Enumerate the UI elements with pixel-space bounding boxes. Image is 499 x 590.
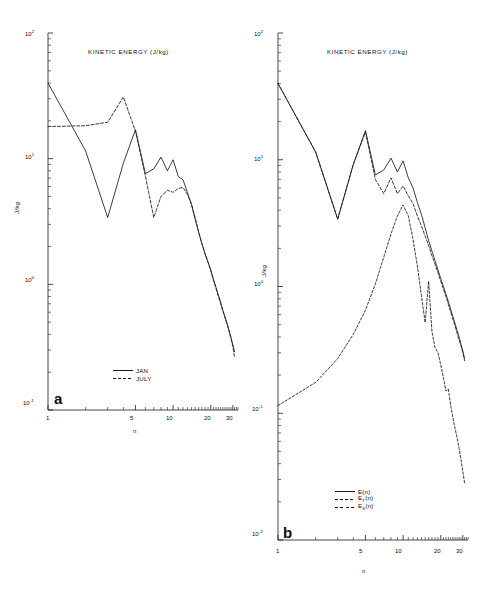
panel-b-ytick-4: 10-2 xyxy=(252,529,263,537)
panel-a-xtick-1: 1 xyxy=(46,415,49,421)
panel-a-y-axis-label: J/kg xyxy=(14,202,20,214)
panel-a-xtick-5: 5 xyxy=(130,415,133,421)
panel-a-legend: JAN JULY xyxy=(113,366,151,382)
panel-b-x-axis-label: n xyxy=(362,568,366,574)
panel-a-ytick-0: 102 xyxy=(25,29,34,37)
panel-b-ytick-2: 100 xyxy=(254,279,263,287)
panel-a-xtick-10: 10 xyxy=(166,415,173,421)
panel-a-ytick-3: 10-1 xyxy=(23,398,34,406)
legend-item-es: ES(n) xyxy=(335,503,374,511)
legend-label-es: ES(n) xyxy=(358,502,374,511)
panel-a-letter: a xyxy=(54,390,62,407)
panel-b-xtick-30: 30 xyxy=(456,548,463,554)
panel-b-legend: E(n) ET(n) ES(n) xyxy=(335,487,374,511)
panel-a-xtick-30: 30 xyxy=(226,415,233,421)
legend-item-jan: JAN xyxy=(113,366,151,374)
panel-b-ytick-1: 101 xyxy=(254,154,263,162)
panel-b-letter: b xyxy=(283,524,292,541)
legend-line-dashed-icon xyxy=(335,499,355,500)
panel-a-ytick-2: 100 xyxy=(25,275,34,283)
panel-a-title: KINETIC ENERGY (J/kg) xyxy=(88,48,169,55)
legend-item-july: JULY xyxy=(113,374,151,382)
panel-b-ytick-0: 102 xyxy=(254,29,263,37)
panel-b-title: KINETIC ENERGY (J/kg) xyxy=(327,48,408,55)
panel-b-y-axis-label: J/kg xyxy=(261,265,267,277)
panel-b-xtick-1: 1 xyxy=(276,548,279,554)
panel-b-xtick-5: 5 xyxy=(359,548,362,554)
panel-b-xtick-20: 20 xyxy=(434,548,441,554)
panel-a-x-axis-label: n xyxy=(133,428,137,434)
legend-line-solid-icon xyxy=(113,370,133,371)
panel-a-plot xyxy=(0,0,250,460)
kinetic-energy-figure: KINETIC ENERGY (J/kg) J/kg n a 102 101 1… xyxy=(0,0,499,590)
legend-label-july: JULY xyxy=(136,375,151,382)
legend-label-jan: JAN xyxy=(136,367,148,374)
panel-a: KINETIC ENERGY (J/kg) J/kg n a 102 101 1… xyxy=(0,0,250,460)
legend-line-dashed-icon xyxy=(335,507,355,508)
legend-line-dashed-icon xyxy=(113,378,133,379)
legend-line-solid-icon xyxy=(335,491,355,492)
panel-b: KINETIC ENERGY (J/kg) J/kg n b 102 101 1… xyxy=(249,0,499,590)
panel-b-xtick-10: 10 xyxy=(395,548,402,554)
panel-b-ytick-3: 10-1 xyxy=(252,404,263,412)
panel-b-plot xyxy=(249,0,499,590)
panel-a-xtick-20: 20 xyxy=(204,415,211,421)
panel-a-ytick-1: 101 xyxy=(25,152,34,160)
